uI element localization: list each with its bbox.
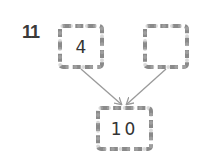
arrow-right-to-whole (127, 69, 166, 104)
arrows (0, 0, 203, 166)
arrow-left-to-whole (81, 69, 121, 104)
